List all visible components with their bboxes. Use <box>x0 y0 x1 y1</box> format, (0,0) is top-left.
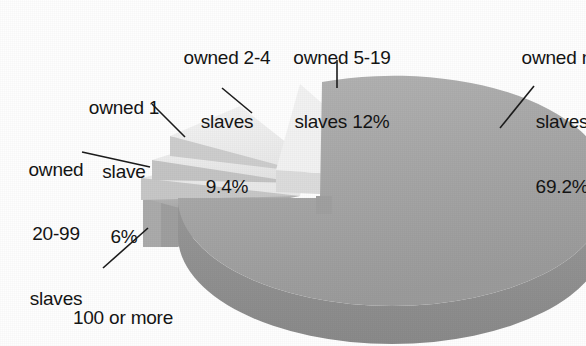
pie-chart-figure: owned no slaves 69.2% owned 5-19 slaves … <box>0 0 586 346</box>
slice-label-no-slaves-line1: owned no <box>492 47 586 68</box>
slice-label-two-to-four-line1: owned 2-4 <box>172 47 282 68</box>
slice-label-five-to-nineteen-line1: owned 5-19 <box>282 47 402 68</box>
slice-label-twenty-to-ninetynine-line2: 20-99 <box>6 223 106 244</box>
slice-label-two-to-four: owned 2-4 slaves 9.4% <box>172 4 282 240</box>
slice-label-two-to-four-line2: slaves <box>172 111 282 132</box>
slice-label-five-to-nineteen: owned 5-19 slaves 12% <box>282 4 402 176</box>
slice-label-hundred-or-more: 100 or more slaves .2% <box>48 264 198 346</box>
slice-label-no-slaves-line2: slaves <box>492 111 586 132</box>
slice-label-twenty-to-ninetynine-line1: owned <box>6 159 106 180</box>
slice-label-no-slaves-line3: 69.2% <box>492 176 586 197</box>
slice-label-two-to-four-line3: 9.4% <box>172 176 282 197</box>
slice-label-hundred-or-more-line1: 100 or more <box>48 307 198 328</box>
slice-label-five-to-nineteen-line2: slaves 12% <box>282 111 402 132</box>
slice-label-no-slaves: owned no slaves 69.2% <box>492 4 586 240</box>
